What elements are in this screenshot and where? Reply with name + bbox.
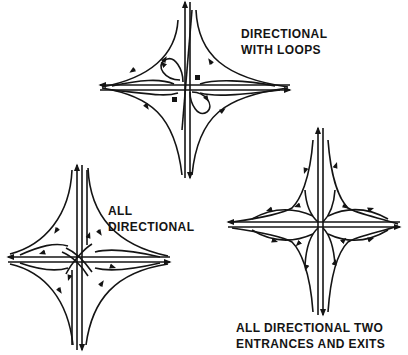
interchange-all-directional	[8, 165, 170, 350]
label-line: DIRECTIONAL	[108, 219, 194, 235]
label-line: WITH LOOPS	[241, 42, 327, 58]
label-line: DIRECTIONAL	[241, 26, 327, 42]
loop-ramp-se	[190, 92, 210, 113]
loop-ramp-nw	[161, 59, 183, 82]
label-line: ALL	[108, 203, 194, 219]
label-all-directional-two-entrances-exits: ALL DIRECTIONAL TWO ENTRANCES AND EXITS	[236, 320, 385, 352]
interchange-all-directional-two-entrances-exits	[228, 128, 400, 315]
label-all-directional: ALL DIRECTIONAL	[108, 203, 194, 235]
label-line: ENTRANCES AND EXITS	[236, 336, 385, 352]
interchange-diagram	[0, 0, 408, 355]
label-line: ALL DIRECTIONAL TWO	[236, 320, 385, 336]
label-directional-with-loops: DIRECTIONAL WITH LOOPS	[241, 26, 327, 58]
